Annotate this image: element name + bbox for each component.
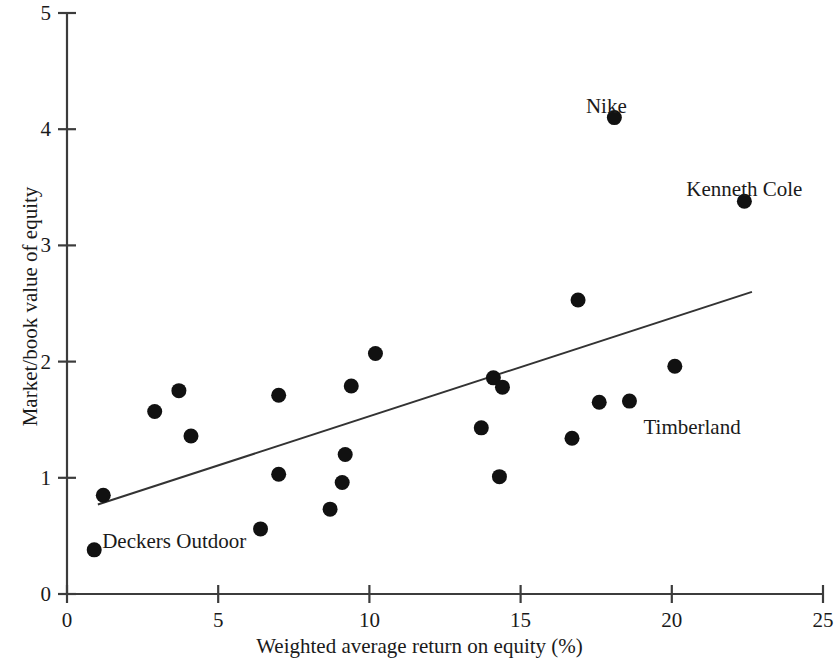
- x-tick-label: 0: [62, 610, 73, 631]
- x-tick-label: 25: [813, 610, 834, 631]
- regression-line: [98, 292, 752, 505]
- y-axis-label: Market/book value of equity: [20, 127, 41, 487]
- data-point: [96, 488, 111, 503]
- data-point: [87, 542, 102, 557]
- data-point: [622, 394, 637, 409]
- data-point: [368, 346, 383, 361]
- data-point: [271, 467, 286, 482]
- data-point: [323, 502, 338, 517]
- x-tick-label: 10: [359, 610, 380, 631]
- axes: [58, 13, 823, 603]
- data-point-label: Timberland: [643, 417, 740, 438]
- data-point: [667, 359, 682, 374]
- data-point: [338, 447, 353, 462]
- data-point: [592, 395, 607, 410]
- data-points: [87, 110, 752, 557]
- data-point: [571, 293, 586, 308]
- x-axis-label: Weighted average return on equity (%): [0, 636, 839, 657]
- scatter-chart-figure: 0123450510152025 NikeKenneth ColeTimberl…: [0, 0, 839, 664]
- data-point: [565, 431, 580, 446]
- data-point: [271, 388, 286, 403]
- data-point-label: Nike: [586, 96, 627, 117]
- data-point: [335, 475, 350, 490]
- data-point-label: Kenneth Cole: [686, 179, 802, 200]
- data-point-label: Deckers Outdoor: [102, 531, 246, 552]
- x-tick-label: 5: [213, 610, 224, 631]
- y-tick-label: 0: [15, 584, 51, 605]
- data-point: [344, 379, 359, 394]
- trend-line: [98, 292, 752, 505]
- data-point: [253, 521, 268, 536]
- data-point: [147, 404, 162, 419]
- data-point: [492, 469, 507, 484]
- data-point: [474, 420, 489, 435]
- x-tick-label: 15: [510, 610, 531, 631]
- data-point: [171, 383, 186, 398]
- data-point: [183, 428, 198, 443]
- plot-canvas: [0, 0, 839, 664]
- y-tick-label: 5: [15, 3, 51, 24]
- x-tick-label: 20: [661, 610, 682, 631]
- data-point: [495, 380, 510, 395]
